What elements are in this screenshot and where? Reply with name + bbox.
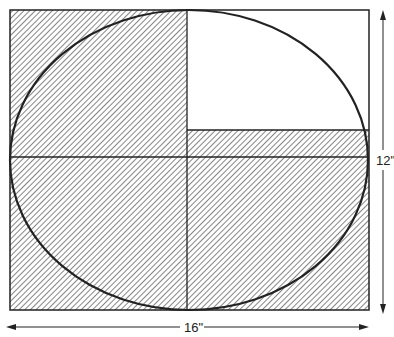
hatched-left-region bbox=[10, 10, 187, 310]
arrow-down-icon bbox=[380, 304, 386, 314]
arrow-right-icon bbox=[359, 324, 369, 330]
width-label: 16" bbox=[184, 320, 203, 335]
arrow-left-icon bbox=[6, 324, 16, 330]
width-dimension: 16" bbox=[6, 320, 369, 335]
ellipse-area-diagram: 12" 16" bbox=[0, 0, 394, 337]
height-label: 12" bbox=[376, 153, 394, 168]
arrow-up-icon bbox=[380, 10, 386, 20]
height-dimension: 12" bbox=[376, 10, 394, 314]
